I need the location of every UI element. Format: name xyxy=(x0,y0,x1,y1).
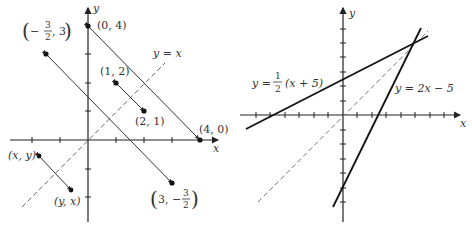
point-4-0 xyxy=(197,137,202,142)
svg-text:3: 3 xyxy=(45,20,51,30)
line-label-2x-minus-5: y = 2x − 5 xyxy=(394,82,454,95)
figure: x y y = x (0, 4) (4, 0) (1, 2) (2, 1) ( … xyxy=(0,0,472,237)
x-axis-label: x xyxy=(213,142,220,155)
line-y-2x-minus-5 xyxy=(333,28,421,207)
line-label-half: y = 1 2 (x + 5) xyxy=(251,71,323,94)
svg-text:2: 2 xyxy=(183,200,189,210)
point-0-4 xyxy=(85,23,90,28)
svg-text:): ) xyxy=(64,19,72,43)
left-diagram: x y y = x (0, 4) (4, 0) (1, 2) (2, 1) ( … xyxy=(8,2,229,222)
point-label-4-0: (4, 0) xyxy=(199,123,229,136)
point-label-yx: (y, x) xyxy=(54,195,81,208)
point-label-xy: (x, y) xyxy=(8,149,36,162)
line-y-equals-x xyxy=(22,63,165,207)
point-label-2-1: (2, 1) xyxy=(135,115,165,128)
segment-xy-to-yx xyxy=(39,156,71,190)
y-axis-label: y xyxy=(348,7,356,20)
point-1-2 xyxy=(113,80,118,85)
point-2-1 xyxy=(141,108,146,113)
y-axis-label: y xyxy=(92,2,100,15)
point-3-neg1p5 xyxy=(169,180,174,185)
point-yx xyxy=(69,188,74,193)
svg-text:3: 3 xyxy=(183,188,189,198)
svg-text:(: ( xyxy=(22,19,30,43)
svg-text:3, −: 3, − xyxy=(158,193,181,206)
point-label-1-2: (1, 2) xyxy=(100,65,130,78)
svg-text:): ) xyxy=(191,187,199,211)
svg-text:−: − xyxy=(30,25,39,38)
point-xy xyxy=(37,154,42,159)
point-neg1p5-3 xyxy=(43,51,48,56)
svg-text:y =: y = xyxy=(251,77,271,90)
svg-text:1: 1 xyxy=(275,71,281,81)
point-label-neg1p5-3: ( − 3 2 , 3 ) xyxy=(22,19,72,43)
right-diagram: x y y = 1 2 (x + 5) y = 2x − 5 xyxy=(240,7,467,222)
point-label-0-4: (0, 4) xyxy=(97,19,127,32)
svg-text:2: 2 xyxy=(275,84,281,94)
point-label-3-neg1p5: ( 3, − 3 2 ) xyxy=(150,187,199,211)
svg-text:(x + 5): (x + 5) xyxy=(285,77,323,90)
segment-1-2-to-2-1 xyxy=(116,83,144,111)
x-axis-label: x xyxy=(460,117,467,130)
line-label-y-equals-x: y = x xyxy=(152,47,182,60)
svg-text:2: 2 xyxy=(45,32,51,42)
svg-text:(: ( xyxy=(150,187,158,211)
